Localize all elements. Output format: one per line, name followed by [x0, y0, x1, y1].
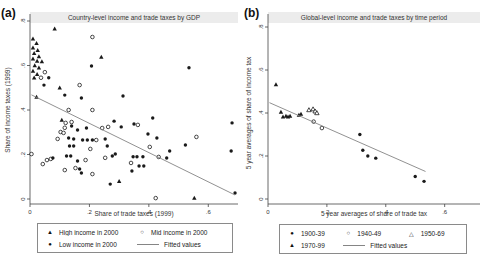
- legend-row: ▲1970-99Fitted values: [285, 239, 461, 251]
- data-point: [45, 158, 49, 162]
- data-point: [94, 138, 98, 142]
- data-point: [132, 122, 135, 125]
- data-point: [86, 138, 89, 141]
- data-point: [37, 65, 41, 69]
- fitted-line-sample: [137, 244, 159, 245]
- data-point: [141, 155, 144, 158]
- data-point: [31, 45, 35, 49]
- data-point: [148, 145, 152, 149]
- data-point: [229, 149, 232, 152]
- y-tick-label: .2: [258, 153, 264, 159]
- data-point: [31, 69, 35, 73]
- data-point: [31, 37, 35, 41]
- data-point: [136, 123, 140, 127]
- data-point: [39, 76, 43, 80]
- data-point: [51, 156, 54, 159]
- data-point: [76, 128, 79, 131]
- data-point: [299, 112, 303, 116]
- data-point: [78, 83, 82, 87]
- triangle-open-icon: △: [405, 230, 419, 237]
- data-point: [47, 76, 50, 79]
- circle-filled-icon: ●: [43, 241, 57, 247]
- data-point: [70, 120, 74, 124]
- data-point: [274, 82, 278, 86]
- legend-label: 1900-39: [299, 230, 325, 237]
- legend-item: ▲1970-99: [285, 242, 341, 249]
- y-tick-label: .8: [20, 18, 26, 24]
- legend-item: △1950-69: [405, 230, 461, 237]
- data-point: [60, 118, 64, 122]
- legend-label: Low income in 2000: [57, 241, 117, 248]
- data-point: [131, 155, 134, 158]
- data-point: [187, 66, 190, 69]
- panel-a-xlabel: Share of trade taxes (1999): [30, 210, 238, 217]
- y-tick-label: 0: [258, 197, 264, 201]
- data-point: [89, 147, 93, 151]
- data-point: [80, 96, 83, 99]
- data-point: [195, 135, 199, 139]
- legend-label: Mid income in 2000: [149, 229, 207, 236]
- legend-item: ○Mid income in 2000: [135, 229, 227, 236]
- data-point: [192, 196, 196, 200]
- data-point: [78, 167, 81, 170]
- scatter-plot-a: 0.2.4.60.2.4.6.8: [0, 0, 243, 220]
- legend-item: ○1940-49: [341, 230, 404, 237]
- data-point: [146, 132, 149, 135]
- data-point: [37, 54, 41, 58]
- fitted-line: [31, 95, 235, 195]
- data-point: [65, 154, 68, 157]
- legend-row: ●1900-39○1940-49△1950-69: [285, 227, 461, 239]
- data-point: [30, 152, 34, 156]
- data-point: [33, 63, 37, 67]
- data-point: [91, 138, 94, 141]
- data-point: [90, 64, 93, 67]
- data-point: [62, 131, 66, 135]
- data-point: [137, 164, 140, 167]
- data-point: [31, 57, 35, 61]
- data-point: [109, 182, 112, 185]
- panel-b-legend: ●1900-39○1940-49△1950-69▲1970-99Fitted v…: [279, 224, 467, 254]
- data-point: [64, 121, 68, 125]
- legend-row: ●Low income in 2000Fitted values: [43, 238, 227, 250]
- y-tick-label: 0: [20, 197, 26, 201]
- legend-item: ●1900-39: [285, 230, 341, 237]
- panel-b: (b) Global-level income and trade taxes …: [243, 0, 487, 256]
- data-point: [230, 121, 233, 124]
- data-point: [374, 156, 377, 159]
- data-point: [58, 85, 62, 89]
- data-point: [103, 156, 107, 160]
- legend-item: Fitted values: [135, 241, 227, 248]
- circle-open-icon: ○: [341, 230, 355, 236]
- data-point: [151, 116, 154, 119]
- data-point: [69, 154, 72, 157]
- data-point: [81, 138, 84, 141]
- legend-item: ▲High income in 2000: [43, 229, 135, 236]
- y-tick-label: .8: [258, 24, 264, 30]
- circle-open-icon: ○: [135, 229, 149, 235]
- data-point: [85, 126, 88, 129]
- data-point: [184, 143, 187, 146]
- data-point: [129, 161, 133, 165]
- data-point: [32, 51, 36, 55]
- data-point: [76, 159, 79, 162]
- legend-label: 1950-69: [419, 230, 445, 237]
- data-point: [67, 136, 70, 139]
- data-point: [112, 119, 115, 122]
- legend-row: ▲High income in 2000○Mid income in 2000: [43, 226, 227, 238]
- legend-label: Fitted values: [368, 242, 407, 249]
- data-point: [43, 70, 47, 74]
- data-point: [155, 136, 158, 139]
- data-point: [91, 108, 95, 112]
- data-point: [63, 93, 66, 96]
- data-point: [99, 55, 103, 59]
- data-point: [366, 154, 369, 157]
- data-point: [130, 169, 133, 172]
- triangle-filled-icon: ▲: [285, 242, 299, 248]
- data-point: [103, 137, 106, 140]
- data-point: [117, 179, 121, 183]
- legend-label: Fitted values: [162, 241, 201, 248]
- data-point: [42, 83, 45, 86]
- data-point: [68, 144, 71, 147]
- data-point: [121, 94, 124, 97]
- legend-label: 1940-49: [355, 230, 381, 237]
